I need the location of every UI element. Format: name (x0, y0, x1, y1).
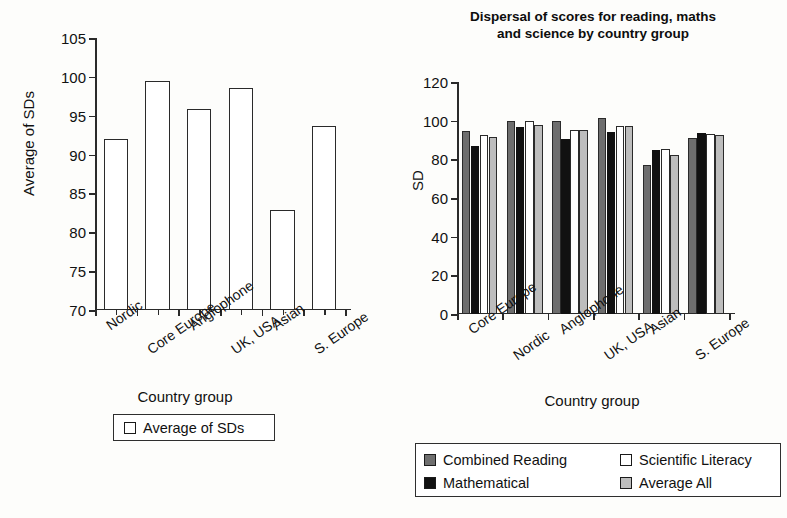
x-tick-label: S. Europe (692, 314, 752, 363)
y-tick-label: 120 (423, 75, 448, 90)
legend-label-average-of-sds: Average of SDs (143, 420, 244, 436)
bar (462, 131, 471, 314)
right-chart-panel: Dispersal of scores for reading, maths a… (395, 0, 787, 518)
y-tick-label: 60 (431, 191, 448, 206)
left-chart-panel: Average of SDs 707580859095100105 Nordic… (0, 0, 395, 518)
bar (688, 138, 697, 314)
x-tick-mark (345, 310, 347, 316)
bar (625, 126, 634, 315)
legend-row-1: Combined Reading Scientific Literacy (424, 448, 772, 471)
y-tick-label: 85 (69, 186, 86, 201)
legend-label-average-all: Average All (639, 475, 712, 491)
bar (697, 133, 706, 314)
y-tick-label: 75 (69, 264, 86, 279)
bar (507, 121, 516, 314)
legend-swatch-average-all (620, 477, 632, 489)
right-chart-title-line-2: and science by country group (413, 25, 773, 42)
bar (480, 135, 489, 314)
legend-swatch-mathematical (424, 477, 436, 489)
bar (670, 155, 679, 315)
left-chart-legend: Average of SDs (113, 414, 275, 441)
right-chart-title-line-1: Dispersal of scores for reading, maths (413, 8, 773, 25)
left-chart-plot-area: 707580859095100105 NordicCore EuropeAngl… (95, 38, 345, 310)
legend-swatch-average-of-sds (124, 422, 136, 434)
legend-item-average-of-sds: Average of SDs (124, 420, 244, 436)
legend-label-scientific-literacy: Scientific Literacy (639, 452, 752, 468)
right-chart-plot-area: 020406080100120 Core EuropeNordicAngloph… (457, 82, 729, 314)
y-tick-label: 80 (69, 225, 86, 240)
bar (715, 135, 724, 314)
legend-swatch-scientific-literacy (620, 454, 632, 466)
y-tick-label: 90 (69, 147, 86, 162)
x-tick-mark (638, 314, 640, 320)
figure-page: Average of SDs 707580859095100105 Nordic… (0, 0, 787, 518)
bar (552, 121, 561, 314)
left-chart-y-axis-label: Average of SDs (20, 54, 37, 234)
legend-label-mathematical: Mathematical (443, 475, 529, 491)
right-chart-x-axis-label: Country group (477, 392, 707, 409)
bar (229, 88, 253, 310)
y-tick-label: 70 (69, 303, 86, 318)
right-chart-bars (457, 82, 729, 314)
bar (561, 139, 570, 314)
legend-row-2: Mathematical Average All (424, 471, 772, 494)
legend-item-average-all: Average All (620, 475, 712, 491)
legend-item-scientific-literacy: Scientific Literacy (620, 452, 752, 468)
bar (579, 130, 588, 314)
right-chart-y-axis-label: SD (409, 151, 426, 211)
y-tick-label: 0 (440, 307, 448, 322)
right-chart-legend: Combined Reading Scientific Literacy Mat… (415, 443, 781, 497)
y-tick-label: 20 (431, 268, 448, 283)
left-chart-x-axis-label: Country group (60, 388, 310, 405)
x-tick-mark (178, 310, 180, 316)
legend-item-combined-reading: Combined Reading (424, 452, 620, 468)
y-tick-label: 100 (61, 69, 86, 84)
bar (104, 139, 128, 310)
bar (145, 81, 169, 310)
bar (661, 149, 670, 314)
legend-swatch-combined-reading (424, 454, 436, 466)
bar (598, 118, 607, 314)
legend-item-mathematical: Mathematical (424, 475, 620, 491)
x-minor-tick-mark (241, 310, 243, 315)
y-tick-label: 105 (61, 31, 86, 46)
bar (706, 134, 715, 314)
bar (187, 109, 211, 310)
left-chart-bars (95, 38, 345, 310)
x-tick-mark (95, 310, 97, 316)
bar (643, 165, 652, 314)
legend-label-combined-reading: Combined Reading (443, 452, 567, 468)
bar (570, 130, 579, 314)
right-chart-title: Dispersal of scores for reading, maths a… (413, 8, 773, 42)
y-tick-label: 95 (69, 108, 86, 123)
y-tick-label: 100 (423, 113, 448, 128)
bar (489, 137, 498, 314)
x-tick-mark (729, 314, 731, 320)
bar (652, 150, 661, 314)
bar (312, 126, 336, 310)
x-tick-mark (262, 310, 264, 316)
y-tick-label: 80 (431, 152, 448, 167)
x-minor-tick-mark (324, 310, 326, 315)
x-tick-label: Nordic (510, 327, 552, 363)
x-minor-tick-mark (158, 310, 160, 315)
x-tick-mark (457, 314, 459, 320)
x-tick-label: S. Europe (311, 308, 371, 357)
bar (270, 210, 294, 310)
bar (471, 146, 480, 314)
x-tick-mark (548, 314, 550, 320)
y-tick-label: 40 (431, 229, 448, 244)
